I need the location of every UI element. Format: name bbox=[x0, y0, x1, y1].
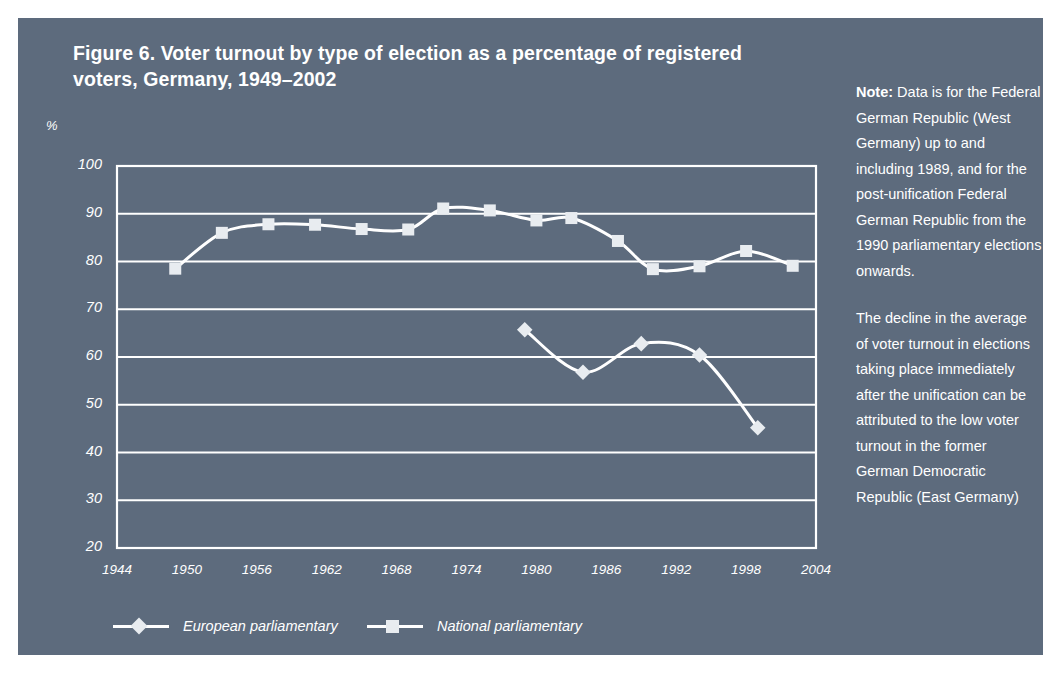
x-axis-tick-label: 1992 bbox=[646, 562, 706, 577]
y-axis-tick-label: 60 bbox=[56, 347, 102, 363]
legend-label-european: European parliamentary bbox=[183, 618, 338, 634]
y-axis-tick-label: 20 bbox=[56, 538, 102, 554]
square-marker-icon bbox=[386, 620, 399, 633]
y-axis-tick-label: 30 bbox=[56, 490, 102, 506]
square-data-point[interactable] bbox=[262, 218, 274, 230]
square-data-point[interactable] bbox=[309, 219, 321, 231]
square-data-point[interactable] bbox=[612, 235, 624, 247]
legend-item-national[interactable]: National parliamentary bbox=[367, 612, 582, 640]
square-data-point[interactable] bbox=[647, 263, 659, 275]
y-axis-tick-label: 80 bbox=[56, 252, 102, 268]
square-data-point[interactable] bbox=[437, 202, 449, 214]
legend-item-european[interactable]: European parliamentary bbox=[113, 612, 338, 640]
x-axis-tick-label: 1962 bbox=[297, 562, 357, 577]
square-data-point[interactable] bbox=[216, 227, 228, 239]
x-axis-tick-label: 1944 bbox=[87, 562, 147, 577]
diamond-marker-icon bbox=[131, 618, 148, 635]
note-paragraph-2: The decline in the average of voter turn… bbox=[856, 306, 1042, 510]
gridlines bbox=[117, 166, 816, 548]
square-data-point[interactable] bbox=[356, 223, 368, 235]
chart-area: % 1009080706050403020 194419501956196219… bbox=[18, 18, 838, 655]
legend-line-icon bbox=[113, 612, 169, 640]
note-text-1: Data is for the Federal German Republic … bbox=[856, 84, 1041, 279]
note-paragraph-1: Note: Data is for the Federal German Rep… bbox=[856, 80, 1042, 284]
figure-panel: Figure 6. Voter turnout by type of elect… bbox=[18, 18, 1043, 655]
data-series-layer bbox=[169, 202, 798, 435]
x-axis-tick-label: 2004 bbox=[786, 562, 846, 577]
diamond-data-point[interactable] bbox=[633, 336, 649, 352]
x-axis-tick-label: 1980 bbox=[506, 562, 566, 577]
square-data-point[interactable] bbox=[169, 263, 181, 275]
square-data-point[interactable] bbox=[402, 224, 414, 236]
chart-plot bbox=[18, 18, 838, 655]
side-note: Note: Data is for the Federal German Rep… bbox=[856, 80, 1042, 532]
x-axis-tick-label: 1974 bbox=[437, 562, 497, 577]
square-data-point[interactable] bbox=[787, 260, 799, 272]
x-axis-tick-label: 1986 bbox=[576, 562, 636, 577]
diamond-data-point[interactable] bbox=[575, 365, 591, 381]
square-data-point[interactable] bbox=[694, 260, 706, 272]
x-axis-tick-label: 1968 bbox=[367, 562, 427, 577]
square-data-point[interactable] bbox=[530, 214, 542, 226]
y-axis-tick-label: 90 bbox=[56, 204, 102, 220]
x-axis-tick-label: 1956 bbox=[227, 562, 287, 577]
square-data-point[interactable] bbox=[740, 245, 752, 257]
chart-legend: European parliamentary National parliame… bbox=[113, 612, 733, 640]
note-label: Note: bbox=[856, 84, 893, 100]
y-axis-tick-label: 50 bbox=[56, 395, 102, 411]
legend-line-icon bbox=[367, 612, 423, 640]
x-axis-tick-label: 1998 bbox=[716, 562, 776, 577]
x-axis-tick-label: 1950 bbox=[157, 562, 217, 577]
y-axis-tick-label: 100 bbox=[56, 156, 102, 172]
square-data-point[interactable] bbox=[565, 212, 577, 224]
legend-label-national: National parliamentary bbox=[437, 618, 582, 634]
y-axis-tick-label: 40 bbox=[56, 443, 102, 459]
square-data-point[interactable] bbox=[484, 204, 496, 216]
y-axis-tick-label: 70 bbox=[56, 299, 102, 315]
